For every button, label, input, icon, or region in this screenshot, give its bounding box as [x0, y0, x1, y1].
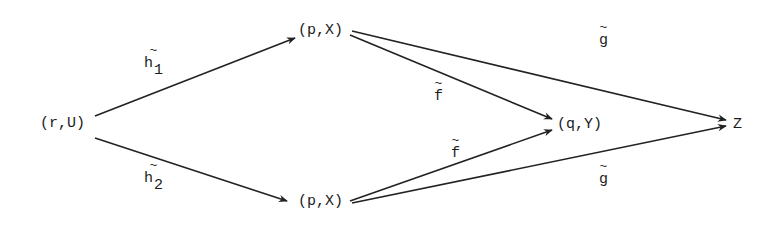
- label-base: g: [599, 171, 608, 188]
- label-base: f: [451, 145, 460, 162]
- arrow-h1: [95, 38, 295, 116]
- node-p-x-bottom: (p,X): [298, 194, 343, 209]
- tilde-mark: ~: [599, 163, 608, 171]
- label-base: h: [144, 55, 153, 72]
- label-base: g: [599, 32, 608, 49]
- label-base: h: [144, 170, 153, 187]
- tilde-mark: ~: [434, 80, 443, 88]
- node-q-y: (q,Y): [557, 117, 602, 132]
- arrow-h2: [95, 138, 287, 201]
- diagram-arrows: [0, 0, 772, 226]
- label-f-bottom: ~f: [451, 137, 460, 161]
- tilde-mark: ~: [451, 137, 460, 145]
- label-base: f: [434, 88, 443, 105]
- arrow-g-bottom: [352, 126, 726, 203]
- label-f-top: ~f: [434, 80, 443, 104]
- label-subscript: 2: [154, 177, 163, 194]
- tilde-mark: ~: [144, 162, 163, 170]
- label-g-bottom: ~g: [599, 163, 608, 187]
- commutative-diagram: (r,U) (p,X) (p,X) (q,Y) Z ~h1 ~h2 ~f ~f …: [0, 0, 772, 226]
- node-p-x-top: (p,X): [298, 23, 343, 38]
- node-r-u: (r,U): [40, 116, 85, 131]
- label-h1: ~h1: [144, 47, 163, 71]
- label-subscript: 1: [154, 62, 163, 79]
- arrow-f-top: [350, 35, 552, 119]
- label-h2: ~h2: [144, 162, 163, 186]
- arrow-g-top: [352, 31, 726, 120]
- tilde-mark: ~: [599, 24, 608, 32]
- node-z: Z: [733, 117, 742, 132]
- tilde-mark: ~: [144, 47, 163, 55]
- label-g-top: ~g: [599, 24, 608, 48]
